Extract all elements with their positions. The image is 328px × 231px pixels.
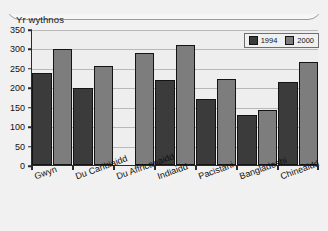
bar-group bbox=[73, 30, 114, 165]
chart-page: Yr wythnos 050100150200250300350 GwynDu … bbox=[0, 0, 328, 231]
chart-legend: 19942000 bbox=[244, 33, 319, 48]
bar-series-container bbox=[32, 30, 318, 165]
x-axis-category-label: Gwyn bbox=[33, 164, 58, 181]
x-axis-tick bbox=[113, 166, 115, 170]
x-axis-tick bbox=[317, 166, 319, 170]
legend-swatch-icon bbox=[249, 36, 258, 45]
bar-2000-bangladeshi bbox=[258, 110, 277, 165]
bar-2000-indiaidd bbox=[176, 45, 195, 165]
x-axis-tick bbox=[236, 166, 238, 170]
legend-item-1994: 1994 bbox=[249, 36, 278, 45]
y-axis-tick-label: 100 bbox=[10, 122, 25, 132]
y-axis-tick bbox=[28, 49, 32, 51]
legend-swatch-icon bbox=[285, 36, 294, 45]
legend-label: 1994 bbox=[261, 37, 278, 45]
page-top-fill bbox=[0, 0, 328, 14]
plot-area bbox=[31, 30, 318, 166]
y-axis-tick-label: 250 bbox=[10, 64, 25, 74]
x-axis-tick bbox=[154, 166, 156, 170]
bar-group bbox=[196, 30, 237, 165]
bar-group bbox=[114, 30, 155, 165]
y-axis-tick-label: 350 bbox=[10, 25, 25, 35]
bar-1994-du-caribiaidd bbox=[73, 88, 92, 165]
y-axis-tick-label: 300 bbox=[10, 44, 25, 54]
y-axis-tick-label: 0 bbox=[20, 161, 25, 171]
x-axis-tick bbox=[31, 166, 33, 170]
bar-2000-du-caribiaidd bbox=[94, 66, 113, 165]
y-axis-tick bbox=[28, 126, 32, 128]
bar-1994-chineaidd bbox=[278, 82, 297, 165]
y-axis-tick-label: 50 bbox=[15, 142, 25, 152]
bar-1994-gwyn bbox=[32, 73, 51, 165]
legend-label: 2000 bbox=[297, 37, 314, 45]
y-axis-tick bbox=[28, 29, 32, 31]
legend-item-2000: 2000 bbox=[285, 36, 314, 45]
bar-group bbox=[278, 30, 319, 165]
bar-group bbox=[155, 30, 196, 165]
chart-title: Yr wythnos bbox=[16, 14, 64, 25]
bar-group bbox=[32, 30, 73, 165]
y-axis-tick bbox=[28, 88, 32, 90]
x-axis-tick bbox=[277, 166, 279, 170]
y-axis-tick-label: 150 bbox=[10, 103, 25, 113]
x-axis-tick bbox=[72, 166, 74, 170]
bar-2000-pacistani bbox=[217, 79, 236, 165]
x-axis-tick bbox=[195, 166, 197, 170]
y-axis-labels: 050100150200250300350 bbox=[0, 30, 29, 166]
y-axis-tick bbox=[28, 146, 32, 148]
bar-2000-chineaidd bbox=[299, 62, 318, 165]
bar-group bbox=[237, 30, 278, 165]
bar-1994-pacistani bbox=[196, 99, 215, 165]
bar-2000-gwyn bbox=[53, 49, 72, 165]
bar-2000-du-affricanaidd bbox=[135, 53, 154, 165]
bar-1994-bangladeshi bbox=[237, 115, 256, 166]
y-axis-tick bbox=[28, 107, 32, 109]
y-axis-tick-label: 200 bbox=[10, 83, 25, 93]
y-axis-tick bbox=[28, 68, 32, 70]
